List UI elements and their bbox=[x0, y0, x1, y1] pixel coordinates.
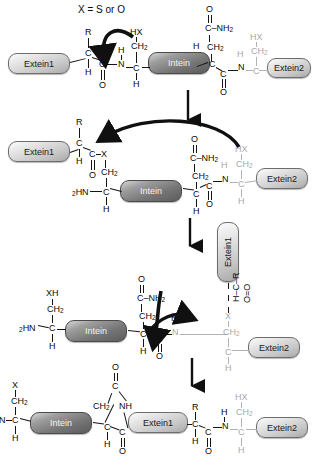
x-definition-label: X = S or O bbox=[78, 5, 125, 15]
bond-box-ca-s4 bbox=[187, 424, 192, 425]
bond-ca-h2-s4 bbox=[195, 429, 196, 437]
thioester-c-s2: C bbox=[89, 150, 96, 159]
intein-box-step2[interactable]: Intein bbox=[120, 180, 182, 202]
asn-h-s1: H bbox=[193, 42, 200, 51]
asn-co-c-s2: C bbox=[206, 182, 213, 191]
bond-n-ca-s3 bbox=[180, 334, 228, 335]
intein-box-step4[interactable]: Intein bbox=[30, 412, 92, 434]
extein1-box-step2[interactable]: Extein1 bbox=[8, 141, 70, 162]
extein2-label-s3: Extein2 bbox=[259, 343, 289, 353]
succ-c2-o-s4: O bbox=[119, 447, 126, 456]
intein-box-step1[interactable]: Intein bbox=[148, 52, 210, 74]
bond-co-n-s2 bbox=[213, 181, 222, 182]
ch2-s3: CH2 bbox=[47, 305, 64, 315]
bond-ch2-ca-ext2-s2 bbox=[241, 170, 242, 179]
ext2-nh-s3: H bbox=[171, 314, 178, 323]
ext2-ch2-s2: CH2 bbox=[236, 160, 253, 170]
bond-n-ca-s4 bbox=[6, 420, 12, 421]
asn-co-c-s3: C bbox=[156, 335, 163, 344]
cys-h-s2: H bbox=[103, 205, 110, 214]
bond-ca-box-ext2-s3 bbox=[232, 350, 249, 351]
h-alpha-s2: H bbox=[76, 157, 83, 166]
bond-ch2-ca-s4 bbox=[15, 407, 16, 415]
bond-ext2-hx-ch2-s4 bbox=[241, 402, 242, 408]
extein2-box-step2[interactable]: Extein2 bbox=[256, 168, 308, 189]
extein2-label: Extein2 bbox=[274, 63, 304, 73]
cys-calpha-s2: C bbox=[103, 188, 110, 197]
bond-ca-h-s2 bbox=[106, 197, 107, 205]
bond-ca-co-s3 bbox=[228, 295, 229, 301]
succ-c-s4: C bbox=[104, 423, 111, 432]
extein1-box-step1[interactable]: Extein1 bbox=[8, 53, 70, 74]
bond-ca-h-s3 bbox=[52, 334, 53, 342]
hcr-group-s3: H–C–R bbox=[232, 272, 241, 302]
h-alpha-s1: H bbox=[85, 68, 92, 77]
bond-co-n-s3 bbox=[164, 334, 172, 335]
bond-asn-co-dbl-a-s1 bbox=[222, 79, 223, 88]
bond-c-n-s4 bbox=[213, 427, 222, 428]
bond-asn-h-s3 bbox=[143, 339, 144, 347]
asn-ch2-s1: CH2 bbox=[207, 43, 224, 53]
ext2-nh-s1: H bbox=[237, 50, 244, 59]
bond-c2o-a-s4 bbox=[121, 438, 122, 447]
bond-nh2-ca-s2 bbox=[90, 191, 102, 192]
r-label-s4: R bbox=[192, 403, 199, 412]
bond-co-b-s4 bbox=[210, 438, 211, 447]
bond-thio-co-b-s2 bbox=[94, 160, 95, 170]
extein2-box-step3[interactable]: Extein2 bbox=[248, 337, 300, 358]
intein-box-step3[interactable]: Intein bbox=[65, 320, 127, 342]
ext2-nh-s2: H bbox=[221, 161, 228, 170]
asn-amide-o-s3: O bbox=[138, 275, 145, 284]
bond-extein1-calpha-s1 bbox=[70, 58, 86, 63]
extein2-box-step1[interactable]: Extein2 bbox=[267, 58, 311, 78]
bond-ca-co-s4 bbox=[199, 425, 206, 429]
bond-c2o-b-s4 bbox=[124, 438, 125, 447]
ext2-h-s4: H bbox=[238, 446, 245, 455]
bond-n-calpha-s1 bbox=[126, 67, 133, 68]
ext2-ch2-s4: CH2 bbox=[236, 408, 253, 418]
asn-co-o-s2: O bbox=[206, 200, 213, 209]
nh2-s3: 2HN bbox=[19, 324, 36, 334]
bond-n-h-s4 bbox=[224, 417, 225, 422]
succ-co-o-s4: O bbox=[112, 363, 119, 372]
bond-amide-co-a-s1 bbox=[208, 15, 209, 23]
extein2-box-step4[interactable]: Extein2 bbox=[256, 417, 308, 438]
extein1-label-s3: Extein1 bbox=[223, 237, 233, 267]
cys-h-s1: H bbox=[133, 80, 140, 89]
bond-asn-ch2-c-s2 bbox=[196, 182, 197, 189]
c-alpha-s2: C bbox=[76, 139, 83, 148]
asn-h-s2: H bbox=[193, 207, 200, 216]
ext2-n-s3: N bbox=[172, 328, 179, 337]
bond-ca-h-ext2-s2 bbox=[241, 189, 242, 197]
bond-thio-co-a-s2 bbox=[91, 160, 92, 170]
bond-ch2-ca-s2 bbox=[106, 178, 107, 187]
asn-amide-o-s2: O bbox=[191, 135, 198, 144]
bond-ext2-ch2-ca-s1 bbox=[256, 57, 257, 66]
asn-co-o-s3: O bbox=[156, 352, 163, 361]
bond-ext2-ch2-ca-s4 bbox=[241, 418, 242, 427]
ext2-calpha-s1: C bbox=[253, 67, 260, 76]
asn-c-s3: C bbox=[140, 330, 147, 339]
bond-cys-c-h-s1 bbox=[136, 73, 137, 80]
cys-calpha-s1: C bbox=[133, 64, 140, 73]
bond-amide-o-a-s2 bbox=[193, 145, 194, 153]
bond-asn-co-dbl-b-s1 bbox=[225, 79, 226, 88]
bond-hx-ch2-s1 bbox=[136, 37, 137, 42]
intein-label-s4: Intein bbox=[50, 418, 72, 428]
ext2-n-s2: N bbox=[222, 175, 229, 184]
bond-ext2-hx-ch2-s1 bbox=[256, 42, 257, 47]
bond-ch2-amide-s3 bbox=[141, 304, 142, 312]
bond-n-ca-s2 bbox=[230, 182, 238, 183]
extein1-box-step4[interactable]: Extein1 bbox=[128, 412, 188, 433]
asn-c-s2: C bbox=[193, 190, 200, 199]
asn-h-s3: H bbox=[140, 347, 147, 356]
asn-co-o-s1: O bbox=[220, 88, 227, 97]
bond-ch2-calpha-s1 bbox=[136, 52, 137, 63]
bond-ca-h-ext2-s3 bbox=[228, 357, 229, 364]
ext2-hx-s1: HX bbox=[250, 33, 263, 42]
succ-nh-s4: NH bbox=[119, 402, 132, 411]
bond-c-n-s1 bbox=[107, 64, 117, 65]
ca-h-s4: H bbox=[192, 437, 199, 446]
bond-succco-b-s4 bbox=[117, 373, 118, 381]
co-c-s4: C bbox=[205, 428, 212, 437]
